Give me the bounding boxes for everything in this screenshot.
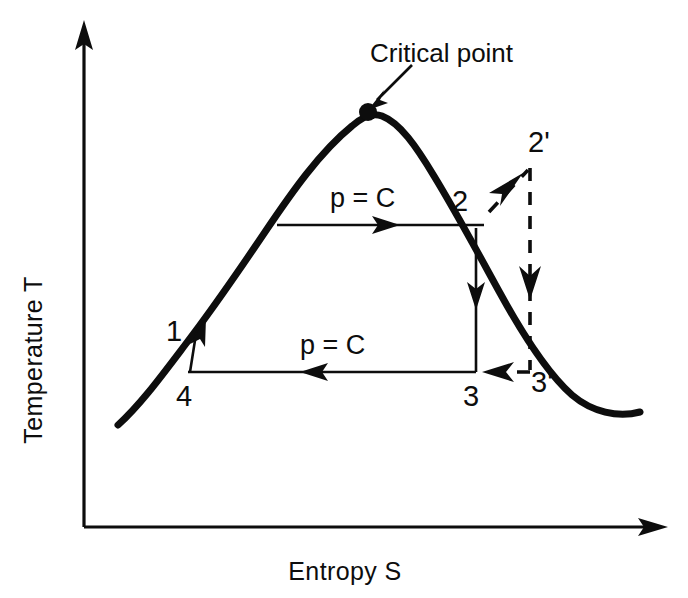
axis-title-group: Temperature T Entropy S (19, 276, 402, 585)
state-label-1: 1 (166, 315, 182, 347)
ts-diagram-canvas: Critical point p = C p = C (0, 0, 688, 598)
process-3-4-condenser: p = C (188, 330, 476, 381)
state-label-3: 3 (463, 380, 479, 412)
state-label-4: 4 (176, 380, 192, 412)
critical-point-leader-line (377, 65, 412, 100)
vapor-dome-curve (118, 115, 640, 425)
ts-diagram-figure: Critical point p = C p = C (0, 0, 688, 598)
lower-pressure-constant-label: p = C (300, 330, 365, 360)
saturation-dome-group (118, 103, 640, 425)
upper-pressure-constant-label: p = C (330, 183, 395, 213)
critical-point-annotation: Critical point (368, 38, 514, 110)
axis-group (75, 20, 668, 536)
state-2prime-link-arrowhead (489, 173, 523, 206)
state-label-3-prime: 3' (531, 366, 553, 398)
x-axis-title: Entropy S (288, 557, 401, 585)
state-label-2: 2 (452, 185, 468, 217)
dashed-link-2prime-2 (489, 170, 528, 212)
process-2-3-turbine (467, 228, 485, 372)
dashed-expansion-2prime-3prime (519, 168, 541, 370)
y-axis-title: Temperature T (19, 276, 47, 443)
state-3prime-link-arrowhead (482, 362, 514, 382)
dashed-link-3prime-3 (482, 362, 530, 382)
critical-point-label: Critical point (370, 38, 514, 68)
state-label-2-prime: 2' (528, 126, 550, 158)
